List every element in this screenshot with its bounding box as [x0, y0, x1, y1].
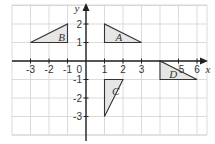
x-tick-label: 3	[139, 64, 145, 75]
x-tick-label: -3	[26, 64, 35, 75]
y-tick-label: -3	[73, 111, 82, 122]
coordinate-grid: ABCD-3-2-11235621-1-2-30xy	[0, 0, 215, 144]
x-tick-label: 5	[179, 64, 185, 75]
x-tick-label: 6	[194, 64, 200, 75]
y-tick-label: -2	[73, 93, 82, 104]
origin-label: 0	[76, 64, 82, 75]
y-tick-label: -1	[73, 74, 82, 85]
y-tick-label: 1	[76, 37, 82, 48]
x-tick-label: 1	[102, 64, 108, 75]
x-tick-label: -2	[45, 64, 54, 75]
shape-label-c: C	[112, 85, 120, 97]
y-tick-label: 2	[76, 19, 82, 30]
shape-label-b: B	[58, 31, 65, 43]
x-tick-label: -1	[63, 64, 72, 75]
x-tick-label: 2	[120, 64, 126, 75]
y-axis-arrow-icon	[83, 3, 90, 11]
shape-label-a: A	[115, 31, 123, 43]
shape-label-d: D	[168, 68, 177, 80]
x-axis-label: x	[205, 63, 211, 75]
y-axis-label: y	[74, 2, 80, 14]
labels: ABCD-3-2-11235621-1-2-30xy	[26, 2, 211, 122]
